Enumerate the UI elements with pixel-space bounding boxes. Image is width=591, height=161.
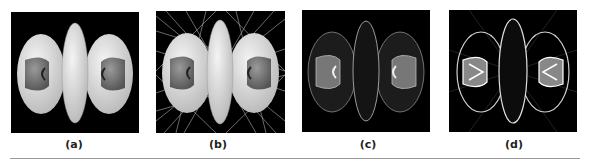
isosurface-bright-wireframe-image <box>449 10 577 132</box>
caption-c: (c) <box>348 138 388 151</box>
caption-d: (d) <box>494 138 534 151</box>
isosurface-rays-image <box>156 11 285 133</box>
caption-b: (b) <box>198 138 238 151</box>
figure-panel-c <box>302 10 430 132</box>
caption-a: (a) <box>54 138 94 151</box>
figure-panel-d <box>449 10 577 132</box>
isosurface-solid-image <box>11 12 139 133</box>
figure-panel-a <box>11 12 139 133</box>
bottom-rule <box>10 158 580 159</box>
isosurface-wireframe-image <box>302 10 430 132</box>
figure-panel-b <box>156 11 285 133</box>
